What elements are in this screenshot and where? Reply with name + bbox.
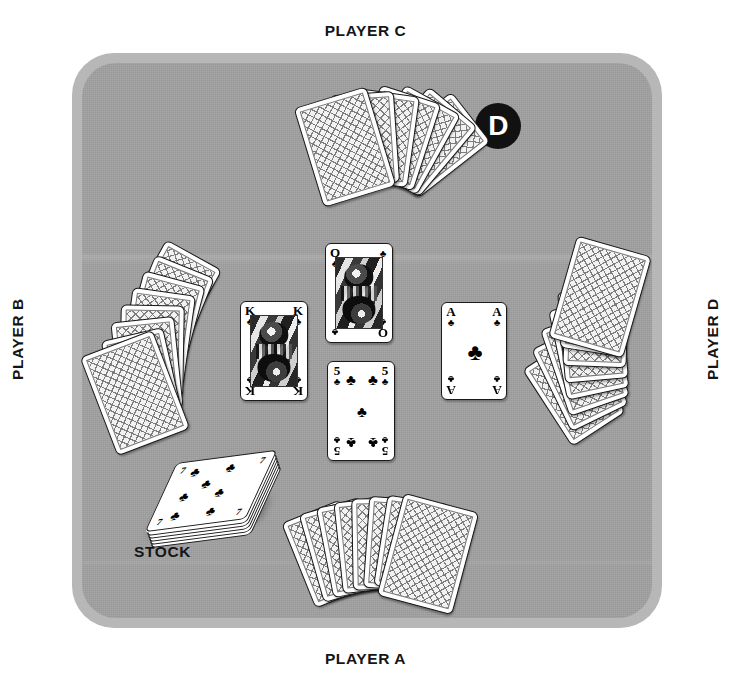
stock-pip: ♣ [220,460,241,475]
stock-pip: ♣ [174,489,195,504]
label-player-a: PLAYER A [0,650,731,668]
trick-card-right[interactable]: A ♣ A ♣ A ♣ A ♣ ♣ [441,302,507,400]
label-player-d: PLAYER D [704,279,722,399]
trick-card-top[interactable]: Q ♣ ♣ ♣ Q ♣ [325,243,393,343]
stock-corner-rank: 7 [232,507,246,516]
stock-corner-rank: 7 [255,455,269,464]
card-pip: ♣ [365,436,381,451]
card-corner-rank: A ♣ [491,374,503,395]
trick-card-bottom[interactable]: 5 ♣ 5 ♣ 5 ♣ 5 ♣ ♣ ♣ ♣ ♣ ♣ [327,361,395,461]
card-pip: ♣ [365,372,381,387]
card-pip: ♣ [463,341,487,364]
diagram-canvas: PLAYER C PLAYER A PLAYER B PLAYER D D [0,0,731,677]
card-corner-rank: 5 ♣ [331,366,343,387]
card-pip: ♣ [343,372,359,387]
stock-pip: ♣ [200,504,221,519]
card-corner-rank: A ♣ [445,374,457,395]
label-player-b: PLAYER B [9,279,27,399]
trick-card-left[interactable]: K ♣ K ♣ K ♣ K ♣ [240,301,308,401]
label-stock: STOCK [134,543,191,561]
card-corner-rank: A ♣ [445,307,457,328]
card-corner-rank: A ♣ [491,307,503,328]
card-corner-rank: 5 ♣ [331,435,343,456]
card-pip: ♣ [354,404,370,419]
stock-pip: ♣ [209,485,230,500]
card-pip: ♣ [343,436,359,451]
label-player-c: PLAYER C [0,22,731,40]
king-portrait-art [250,315,298,387]
stock-pip: ♣ [165,508,186,523]
queen-portrait-art [335,257,383,329]
stock-pile[interactable]: 7 7 7 7 ♣ ♣ ♣ ♣ ♣ ♣ ♣ [155,450,285,550]
